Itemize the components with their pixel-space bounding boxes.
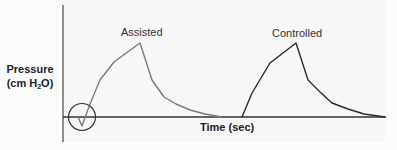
- y-axis-unit-suffix: O): [41, 77, 53, 89]
- controlled-label: Controlled: [272, 27, 322, 39]
- controlled-curve: [242, 43, 385, 117]
- diagram-canvas: Pressure (cm H2O) Assisted Controlled Ti…: [0, 0, 397, 150]
- x-axis-label: Time (sec): [200, 121, 254, 133]
- y-axis-label-line1: Pressure: [0, 62, 60, 76]
- y-axis-unit-prefix: (cm H: [7, 77, 38, 89]
- y-axis-label: Pressure (cm H2O): [0, 62, 60, 94]
- y-axis-label-line2: (cm H2O): [0, 76, 60, 94]
- assisted-label: Assisted: [121, 26, 163, 38]
- assisted-curve: [78, 43, 222, 126]
